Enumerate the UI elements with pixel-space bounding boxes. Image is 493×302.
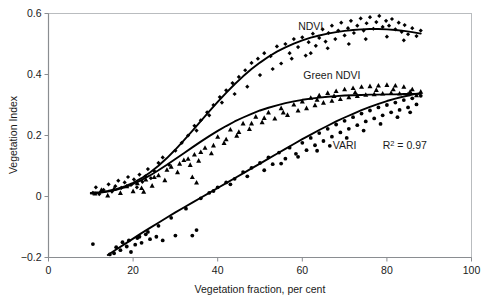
data-point-vari <box>313 143 317 147</box>
data-point-vari <box>343 119 347 123</box>
data-point-vari <box>174 234 178 238</box>
r-squared-annotation: R2 = 0.97 <box>383 139 427 152</box>
x-tick-label-0: 0 <box>46 264 52 276</box>
x-tick-label-5: 100 <box>463 264 481 276</box>
data-point-vari <box>408 110 412 114</box>
data-point-vari <box>379 122 383 126</box>
x-axis-title: Vegetation fraction, per cent <box>195 283 326 295</box>
data-point-vari <box>148 237 152 241</box>
data-point-vari <box>91 242 95 246</box>
data-point-vari <box>245 174 249 178</box>
data-point-vari <box>125 245 129 249</box>
data-point-vari <box>315 149 319 153</box>
data-point-vari <box>385 103 389 107</box>
data-point-vari <box>129 250 133 254</box>
data-point-vari <box>262 168 266 172</box>
data-point-vari <box>355 123 359 127</box>
green-ndvi-label: Green NDVI <box>303 69 360 81</box>
data-point-vari <box>402 98 406 102</box>
data-point-vari <box>140 241 144 245</box>
y-tick-label-0: −0.2 <box>21 251 42 263</box>
y-tick-label-4: 0.6 <box>27 7 42 19</box>
data-point-vari <box>322 139 326 143</box>
x-tick-label-1: 20 <box>127 264 139 276</box>
data-point-vari <box>377 106 381 110</box>
y-tick-label-2: 0.2 <box>27 129 42 141</box>
data-point-vari <box>360 112 364 116</box>
x-tick-label-4: 80 <box>381 264 393 276</box>
x-tick-label-2: 40 <box>212 264 224 276</box>
y-tick-label-1: 0 <box>36 190 42 202</box>
data-point-vari <box>362 129 366 133</box>
data-point-vari <box>410 96 414 100</box>
data-point-vari <box>364 120 368 124</box>
data-point-vari <box>305 148 309 152</box>
vari-label: VARI <box>333 139 357 151</box>
data-point-vari <box>279 162 283 166</box>
data-point-vari <box>296 155 300 159</box>
data-point-vari <box>415 102 419 106</box>
data-point-vari <box>161 239 165 243</box>
data-point-vari <box>133 243 137 247</box>
data-point-vari <box>330 135 334 139</box>
data-point-vari <box>368 109 372 113</box>
data-point-vari <box>372 117 376 121</box>
vegetation-index-scatter-chart: 020406080100 −0.200.20.40.6 NDVIGreen ND… <box>0 0 493 302</box>
data-point-vari <box>381 113 385 117</box>
data-point-vari <box>347 127 351 131</box>
data-point-vari <box>154 235 158 239</box>
data-point-vari <box>271 162 275 166</box>
data-point-vari <box>398 108 402 112</box>
x-tick-label-3: 60 <box>296 264 308 276</box>
data-point-vari <box>283 157 287 161</box>
ndvi-label: NDVI <box>298 20 323 32</box>
data-point-vari <box>309 136 313 140</box>
data-point-vari <box>228 182 232 186</box>
data-point-vari <box>389 110 393 114</box>
data-point-vari <box>393 101 397 105</box>
data-point-vari <box>396 115 400 119</box>
y-tick-label-3: 0.4 <box>27 68 42 80</box>
data-point-vari <box>328 144 332 148</box>
data-point-vari <box>351 115 355 119</box>
data-point-vari <box>406 106 410 110</box>
data-point-vari <box>195 228 199 232</box>
data-point-vari <box>300 141 304 145</box>
data-point-vari <box>190 234 194 238</box>
data-point-vari <box>119 248 123 252</box>
data-point-vari <box>338 131 342 135</box>
y-axis-title: Vegetation Index <box>7 95 19 174</box>
chart-figure: 020406080100 −0.200.20.40.6 NDVIGreen ND… <box>0 0 493 302</box>
